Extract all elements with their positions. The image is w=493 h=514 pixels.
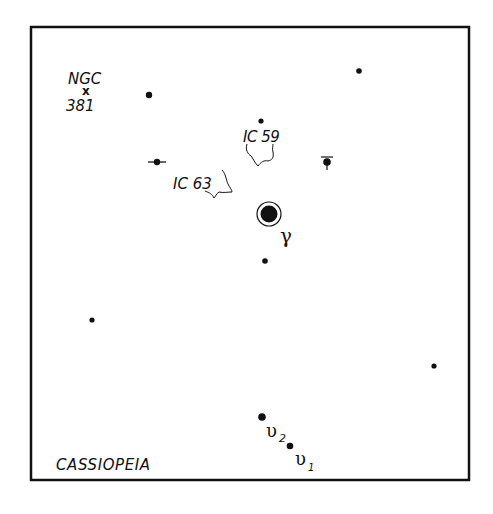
upsilon1-label: υ bbox=[295, 448, 306, 469]
star-right bbox=[431, 363, 436, 368]
star-upsilon1 bbox=[287, 443, 294, 450]
chart-frame bbox=[31, 27, 469, 480]
gamma-star-icon bbox=[257, 202, 281, 226]
star-upsilon2 bbox=[258, 413, 266, 421]
variable-star-icon bbox=[321, 157, 333, 170]
ic59-nebula-outline bbox=[246, 144, 273, 166]
upsilon2-label: υ bbox=[266, 420, 277, 441]
star-near-ngc381 bbox=[146, 92, 152, 98]
ngc381-label-bottom: 381 bbox=[66, 97, 95, 115]
cluster-marker-icon: x bbox=[82, 84, 90, 98]
star-above-ic59 bbox=[258, 118, 263, 123]
star-below-gamma bbox=[262, 258, 268, 264]
star-left bbox=[89, 317, 94, 322]
upsilon2-subscript: 2 bbox=[279, 432, 286, 445]
upsilon1-subscript: 1 bbox=[308, 462, 314, 473]
ic63-label: IC 63 bbox=[173, 175, 212, 193]
double-star-icon bbox=[148, 159, 166, 165]
star-chart: NGC x 381 IC 59 IC 63 γ υ 2 υ 1 CASSIOPE… bbox=[0, 0, 493, 514]
constellation-label: CASSIOPEIA bbox=[56, 456, 151, 474]
ic59-label: IC 59 bbox=[243, 128, 279, 146]
star-top-right bbox=[356, 68, 362, 74]
gamma-label: γ bbox=[280, 224, 292, 248]
